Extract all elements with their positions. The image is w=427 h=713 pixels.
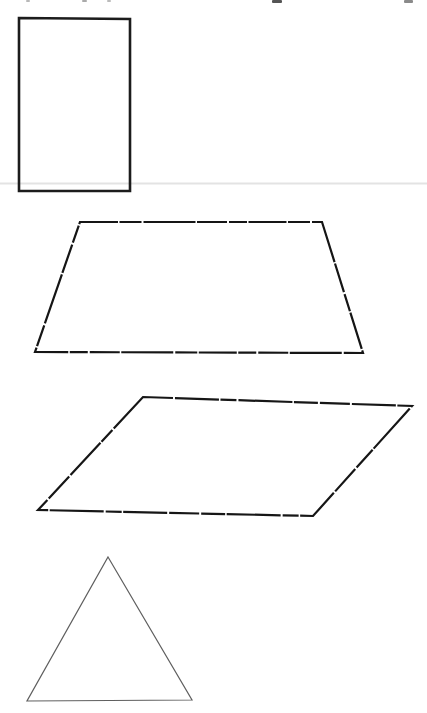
top-edge-text-fragment bbox=[107, 0, 111, 2]
parallelogram-shape bbox=[38, 397, 412, 516]
rectangle-shape bbox=[19, 18, 130, 191]
top-edge-text-fragment bbox=[82, 0, 87, 2]
top-edge-text-fragment bbox=[272, 0, 282, 3]
scanned-worksheet-page bbox=[0, 0, 427, 713]
shapes-svg bbox=[0, 0, 427, 713]
trapezoid-shape bbox=[35, 222, 363, 353]
top-edge-text-fragment bbox=[26, 0, 30, 2]
top-edge-text-fragment bbox=[404, 0, 413, 3]
triangle-shape bbox=[27, 557, 192, 701]
